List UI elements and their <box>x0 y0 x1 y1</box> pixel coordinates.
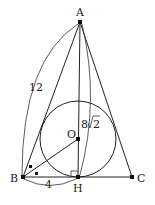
label-c: C <box>137 172 145 185</box>
vertex-h-dot <box>76 175 80 179</box>
arc-ah <box>80 24 91 175</box>
angle-mark-1 <box>29 165 32 168</box>
vertex-c-dot <box>130 175 134 179</box>
length-ab: 12 <box>29 81 43 94</box>
label-o: O <box>67 128 76 141</box>
length-ah: 8 2 <box>81 116 100 131</box>
segment-ac <box>80 22 132 177</box>
length-bh: 4 <box>45 178 52 191</box>
vertex-a-dot <box>78 20 82 24</box>
segment-bo <box>23 139 78 177</box>
angle-mark-2 <box>35 172 38 175</box>
length-ah-coefficient: 8 <box>81 118 88 131</box>
altitude-ah <box>78 22 80 177</box>
geometry-diagram: A B C H O 12 4 8 2 <box>0 0 155 205</box>
label-a: A <box>75 6 85 19</box>
center-o-dot <box>76 137 80 141</box>
segment-ab <box>23 22 80 177</box>
length-ah-radicand: 2 <box>93 118 100 131</box>
arc-ab <box>22 24 78 175</box>
label-b: B <box>10 172 18 185</box>
label-h: H <box>73 182 83 195</box>
vertex-b-dot <box>21 175 25 179</box>
